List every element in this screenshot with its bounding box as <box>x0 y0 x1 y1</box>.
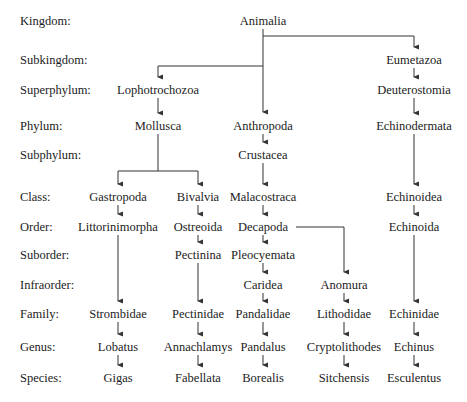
rank-label-order: Order: <box>20 220 53 234</box>
taxon-anomura: Anomura <box>320 278 367 292</box>
rank-label-species: Species: <box>20 371 62 385</box>
taxon-echinodermata: Echinodermata <box>376 119 452 133</box>
taxon-cryptolithodes: Cryptolithodes <box>307 340 381 354</box>
taxon-pandalidae: Pandalidae <box>236 307 291 321</box>
taxon-pectinidae: Pectinidae <box>172 307 224 321</box>
taxon-caridea: Caridea <box>244 278 283 292</box>
taxon-echinoidea: Echinoidea <box>386 190 442 204</box>
taxon-echinoida: Echinoida <box>389 220 440 234</box>
taxon-echinidae: Echinidae <box>389 307 439 321</box>
taxon-littorinimorpha: Littorinimorpha <box>78 220 158 234</box>
rank-label-superphylum: Superphylum: <box>20 83 91 97</box>
taxon-lithodidae: Lithodidae <box>317 307 371 321</box>
taxon-bivalvia: Bivalvia <box>177 190 219 204</box>
taxon-sitchensis: Sitchensis <box>319 371 370 385</box>
taxon-lobatus: Lobatus <box>98 340 138 354</box>
rank-label-family: Family: <box>20 307 59 321</box>
taxon-mollusca: Mollusca <box>135 119 182 133</box>
taxon-echinus: Echinus <box>394 340 434 354</box>
rank-label-subkingdom: Subkingdom: <box>20 53 87 67</box>
rank-label-subphylum: Subphylum: <box>20 148 81 162</box>
taxon-gastropoda: Gastropoda <box>89 190 147 204</box>
taxon-malacostraca: Malacostraca <box>230 190 297 204</box>
rank-label-genus: Genus: <box>20 340 55 354</box>
edge-decapoda-anomura <box>296 227 344 272</box>
taxon-gigas: Gigas <box>103 371 132 385</box>
taxon-esculentus: Esculentus <box>387 371 441 385</box>
rank-label-infraorder: Infraorder: <box>20 278 74 292</box>
rank-label-phylum: Phylum: <box>20 119 62 133</box>
taxon-ostreoida: Ostreoida <box>174 220 223 234</box>
taxon-decapoda: Decapoda <box>238 220 288 234</box>
taxon-strombidae: Strombidae <box>89 307 147 321</box>
taxon-annachlamys: Annachlamys <box>164 340 233 354</box>
rank-label-suborder: Suborder: <box>20 248 69 262</box>
taxon-pleocyemata: Pleocyemata <box>231 248 295 262</box>
rank-label-kingdom: Kingdom: <box>20 14 71 28</box>
taxon-deuterostomia: Deuterostomia <box>377 83 451 97</box>
edge-mollusca-gastropoda <box>118 171 158 184</box>
taxon-eumetazoa: Eumetazoa <box>386 53 442 67</box>
taxon-lophotrochozoa: Lophotrochozoa <box>117 83 199 97</box>
taxon-anthropoda: Anthropoda <box>233 119 293 133</box>
edge-animalia-eumetazoa <box>263 36 414 47</box>
edge-animalia-lophotrochozoa <box>158 66 263 77</box>
taxon-borealis: Borealis <box>242 371 284 385</box>
rank-label-class: Class: <box>20 190 51 204</box>
taxon-animalia: Animalia <box>240 14 287 28</box>
taxon-fabellata: Fabellata <box>175 371 221 385</box>
edge-mollusca-bivalvia <box>158 171 198 184</box>
taxon-pandalus: Pandalus <box>240 340 285 354</box>
taxon-pectinina: Pectinina <box>175 248 222 262</box>
taxon-crustacea: Crustacea <box>238 148 287 162</box>
